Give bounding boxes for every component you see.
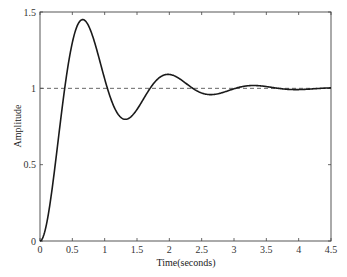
x-tick-label: 2	[167, 244, 172, 255]
plot-frame	[40, 12, 331, 241]
x-tick-label: 1.5	[131, 244, 144, 255]
x-tick-label: 3	[232, 244, 237, 255]
x-axis-label: Time(seconds)	[156, 257, 215, 269]
y-tick-labels: 00.511.5	[24, 7, 37, 247]
y-tick-label: 0.5	[24, 159, 37, 170]
x-tick-label: 4	[296, 244, 301, 255]
y-tick-label: 1.5	[24, 7, 37, 18]
x-tick-label: 0.5	[66, 244, 79, 255]
y-axis-label: Amplitude	[12, 104, 23, 147]
step-response-curve	[40, 20, 331, 241]
x-tick-label: 0	[38, 244, 43, 255]
y-tick-label: 1	[31, 83, 36, 94]
x-tick-labels: 00.511.522.533.544.5	[38, 244, 338, 255]
axis-ticks	[40, 12, 331, 241]
x-tick-label: 1	[102, 244, 107, 255]
y-tick-label: 0	[31, 236, 36, 247]
x-tick-label: 3.5	[260, 244, 273, 255]
step-response-chart: 00.511.522.533.544.5 00.511.5 Time(secon…	[0, 0, 347, 277]
x-tick-label: 2.5	[195, 244, 208, 255]
x-tick-label: 4.5	[325, 244, 338, 255]
